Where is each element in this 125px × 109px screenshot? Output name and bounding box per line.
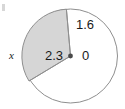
variable-label-x: x <box>9 50 14 61</box>
angle-label-1-6: 1.6 <box>76 18 94 31</box>
center-point-marker <box>68 54 73 59</box>
angle-label-zero: 0 <box>82 49 89 62</box>
circle-sector-figure: 1.6 2.3 0 x <box>0 0 125 109</box>
angle-label-2-3: 2.3 <box>45 49 63 62</box>
